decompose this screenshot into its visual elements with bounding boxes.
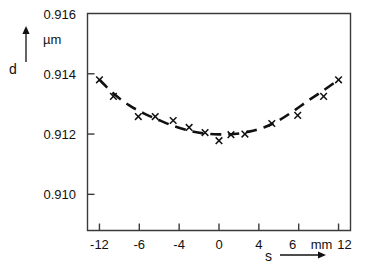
data-point-marker (268, 120, 275, 127)
data-point-marker (186, 124, 193, 131)
data-point-marker (335, 77, 342, 84)
axis-arrows (22, 26, 326, 259)
data-point-marker (216, 137, 223, 144)
data-point-marker (242, 131, 249, 138)
data-point-marker (135, 113, 142, 120)
axes-frame (88, 14, 351, 231)
data-point-marker (170, 117, 177, 124)
axis-ticks (88, 74, 339, 231)
chart-figure: d µm s 0.916 0.914 0.912 0.910 -12 -6 -4… (0, 0, 365, 271)
data-point-marker (96, 77, 103, 84)
data-point-marker (152, 113, 159, 120)
data-point-marker (294, 112, 301, 119)
fit-curve-dashed (99, 80, 338, 135)
plot-canvas (0, 0, 365, 271)
data-point-marker (320, 93, 327, 100)
